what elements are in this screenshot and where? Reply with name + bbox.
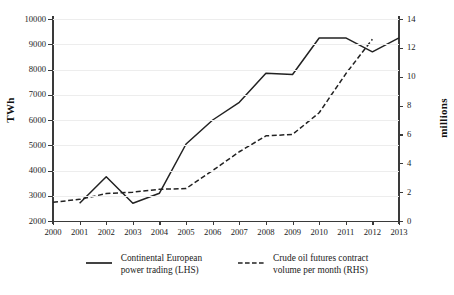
x-axis-tick-label: 2008 bbox=[257, 228, 274, 237]
y-axis-left-tick bbox=[48, 221, 52, 222]
x-axis-tick bbox=[106, 221, 107, 225]
gridline bbox=[53, 120, 399, 121]
x-axis-tick-label: 2012 bbox=[364, 228, 381, 237]
y-axis-right-tick bbox=[399, 192, 403, 193]
y-axis-left-tick bbox=[48, 70, 52, 71]
x-axis-tick bbox=[266, 221, 267, 225]
y-axis-right-tick bbox=[399, 134, 403, 135]
x-axis-tick bbox=[213, 221, 214, 225]
y-axis-right-tick bbox=[399, 48, 403, 49]
x-axis-tick-label: 2001 bbox=[71, 228, 88, 237]
y-axis-left-tick-label: 2000 bbox=[29, 217, 46, 226]
x-axis-tick-label: 2009 bbox=[284, 228, 301, 237]
y-axis-right-tick-label: 0 bbox=[407, 217, 411, 226]
y-axis-left-tick-label: 6000 bbox=[29, 116, 46, 125]
x-axis-tick bbox=[80, 221, 81, 225]
y-axis-left-tick bbox=[48, 171, 52, 172]
legend-label: Crude oil futures contract volume per mo… bbox=[273, 252, 368, 277]
x-axis-tick-label: 2011 bbox=[337, 228, 354, 237]
y-axis-right-tick bbox=[399, 106, 403, 107]
x-axis-tick-label: 2005 bbox=[177, 228, 194, 237]
x-axis-tick bbox=[239, 221, 240, 225]
y-axis-right-tick bbox=[399, 19, 403, 20]
chart-legend: Continental European power trading (LHS)… bbox=[0, 252, 454, 277]
y-axis-left-tick bbox=[48, 19, 52, 20]
legend-label: Continental European power trading (LHS) bbox=[121, 252, 202, 277]
gridline bbox=[53, 44, 399, 45]
y-axis-right-tick-label: 2 bbox=[407, 188, 411, 197]
x-axis-tick-label: 2003 bbox=[124, 228, 141, 237]
plot-area: 2000300040005000600070008000900010000024… bbox=[53, 19, 399, 221]
y-axis-left-title: TWh bbox=[4, 97, 16, 122]
x-axis-tick bbox=[293, 221, 294, 225]
x-axis-tick bbox=[186, 221, 187, 225]
y-axis-right-title: millions bbox=[437, 98, 449, 138]
y-axis-right-tick-label: 10 bbox=[407, 72, 416, 81]
legend-item[interactable]: Continental European power trading (LHS) bbox=[86, 252, 202, 277]
y-axis-right-tick-label: 12 bbox=[407, 43, 416, 52]
solid-line-icon bbox=[86, 255, 112, 267]
y-axis-left-tick-label: 10000 bbox=[25, 15, 46, 24]
gridline bbox=[53, 19, 399, 20]
gridline bbox=[53, 171, 399, 172]
x-axis-tick bbox=[399, 221, 400, 225]
x-axis-tick-label: 2004 bbox=[151, 228, 168, 237]
x-axis-tick bbox=[159, 221, 160, 225]
y-axis-left-tick bbox=[48, 95, 52, 96]
x-axis-tick-label: 2000 bbox=[44, 228, 61, 237]
gridline bbox=[53, 95, 399, 96]
x-axis-tick bbox=[346, 221, 347, 225]
x-axis-tick bbox=[319, 221, 320, 225]
y-axis-left-tick-label: 3000 bbox=[29, 191, 46, 200]
y-axis-right-tick-label: 6 bbox=[407, 130, 411, 139]
x-axis-tick bbox=[53, 221, 54, 225]
gridline bbox=[53, 145, 399, 146]
y-axis-left-tick-label: 7000 bbox=[29, 90, 46, 99]
dashed-line-icon bbox=[238, 255, 264, 267]
y-axis-right-tick bbox=[399, 77, 403, 78]
gridline bbox=[53, 70, 399, 71]
y-axis-left-tick bbox=[48, 145, 52, 146]
x-axis-tick-label: 2013 bbox=[390, 228, 407, 237]
x-axis-tick bbox=[372, 221, 373, 225]
y-axis-left-tick-label: 5000 bbox=[29, 141, 46, 150]
x-axis-tick-label: 2010 bbox=[311, 228, 328, 237]
y-axis-right-tick bbox=[399, 163, 403, 164]
y-axis-right-tick-label: 14 bbox=[407, 15, 416, 24]
gridline bbox=[53, 196, 399, 197]
y-axis-left-tick bbox=[48, 44, 52, 45]
y-axis-right-tick-label: 8 bbox=[407, 101, 411, 110]
y-axis-left-tick-label: 9000 bbox=[29, 40, 46, 49]
x-axis-tick-label: 2006 bbox=[204, 228, 221, 237]
legend-item[interactable]: Crude oil futures contract volume per mo… bbox=[238, 252, 368, 277]
y-axis-left-tick bbox=[48, 120, 52, 121]
x-axis-tick bbox=[133, 221, 134, 225]
y-axis-right-tick-label: 4 bbox=[407, 159, 411, 168]
x-axis-tick-label: 2007 bbox=[231, 228, 248, 237]
y-axis-left-tick-label: 4000 bbox=[29, 166, 46, 175]
chart-figure: 2000300040005000600070008000900010000024… bbox=[0, 0, 454, 295]
y-axis-left-tick bbox=[48, 196, 52, 197]
y-axis-left-tick-label: 8000 bbox=[29, 65, 46, 74]
x-axis-tick-label: 2002 bbox=[98, 228, 115, 237]
